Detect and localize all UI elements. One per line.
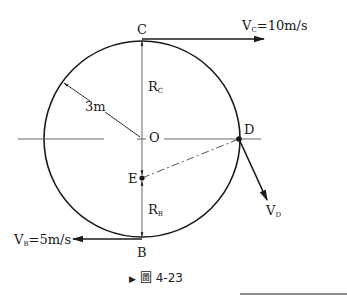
velocity-d-arrow [239, 139, 267, 200]
point-e-dot [139, 175, 144, 180]
label-o: O [149, 130, 160, 145]
label-rc: RC [148, 79, 163, 95]
figure-caption: ▶圖 4-23 [129, 271, 183, 285]
label-vd: VD [265, 203, 281, 219]
label-d: D [244, 122, 254, 137]
label-e: E [128, 171, 138, 186]
label-c: C [137, 22, 147, 37]
point-d-dot [236, 136, 242, 142]
label-3m: 3m [85, 99, 106, 114]
label-rb: RB [148, 202, 163, 218]
circular-motion-diagram: C O D E B 3m RC RB VC=10m/s VB=5m/s VD ▶… [0, 0, 347, 307]
label-b: B [137, 245, 147, 260]
label-vb: VB=5m/s [13, 232, 71, 248]
label-vc: VC=10m/s [241, 18, 308, 34]
radius-3m-arrow [105, 112, 140, 137]
